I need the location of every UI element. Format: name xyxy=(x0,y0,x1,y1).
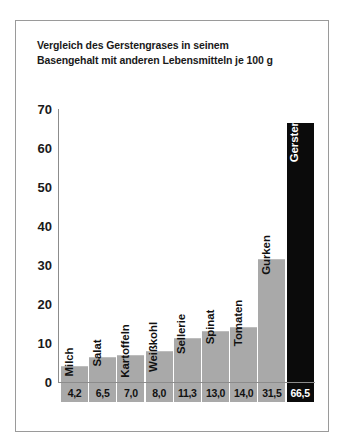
bar-category-label: Milch xyxy=(63,347,75,376)
value-label: 31,5 xyxy=(258,383,285,402)
bar-category-label: Weißkohl xyxy=(147,322,159,372)
value-label: 6,5 xyxy=(89,383,116,402)
bar-category-label: Tomaten xyxy=(232,300,244,346)
bar-slot: Milch xyxy=(61,109,88,382)
value-label-row: 4,26,57,08,011,313,014,031,566,5 xyxy=(61,383,315,402)
value-label: 7,0 xyxy=(117,383,144,402)
chart-title-line-1: Vergleich des Gerstengrases in seinem xyxy=(37,38,312,53)
value-label: 66,5 xyxy=(287,383,314,402)
bar[interactable] xyxy=(258,259,285,382)
chart-title: Vergleich des Gerstengrases in seinem Ba… xyxy=(37,38,312,68)
bar-category-label: Gurken xyxy=(260,235,272,275)
value-label: 8,0 xyxy=(146,383,173,402)
bar-slot: Tomaten xyxy=(230,109,257,382)
y-tick-label-70: 70 xyxy=(38,102,52,117)
value-label: 13,0 xyxy=(202,383,229,402)
y-tick-label-20: 20 xyxy=(38,297,52,312)
plot-area: 010203040506070 MilchSalatKartoffelnWeiß… xyxy=(58,109,315,382)
bar-slot: Salat xyxy=(89,109,116,382)
y-tick-label-40: 40 xyxy=(38,219,52,234)
bar-slot: Gerstengras xyxy=(287,109,314,382)
chart-title-line-2: Basengehalt mit anderen Lebensmitteln je… xyxy=(37,53,312,68)
y-axis-line xyxy=(58,109,59,382)
bar-slot: Sellerie xyxy=(174,109,201,382)
bar-category-label: Gerstengras xyxy=(288,95,300,162)
y-tick-label-0: 0 xyxy=(45,375,52,390)
bar-category-label: Kartoffeln xyxy=(119,324,131,377)
y-tick-label-50: 50 xyxy=(38,180,52,195)
bar-category-label: Salat xyxy=(91,339,103,366)
bar-slot: Gurken xyxy=(258,109,285,382)
y-tick-label-30: 30 xyxy=(38,258,52,273)
bar-slot: Kartoffeln xyxy=(117,109,144,382)
bar-category-label: Sellerie xyxy=(175,314,187,354)
bar-category-label: Spinat xyxy=(204,310,216,345)
y-tick-label-60: 60 xyxy=(38,141,52,156)
bar-slot: Spinat xyxy=(202,109,229,382)
bar-group: MilchSalatKartoffelnWeißkohlSellerieSpin… xyxy=(61,109,315,382)
bar-slot: Weißkohl xyxy=(146,109,173,382)
value-label: 14,0 xyxy=(230,383,257,402)
value-label: 4,2 xyxy=(61,383,88,402)
value-label: 11,3 xyxy=(174,383,201,402)
chart-figure: Vergleich des Gerstengrases in seinem Ba… xyxy=(15,20,329,432)
y-tick-label-10: 10 xyxy=(38,336,52,351)
